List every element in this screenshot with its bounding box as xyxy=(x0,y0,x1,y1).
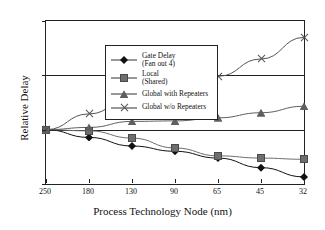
x-tick-label: 65 xyxy=(213,187,221,196)
y-tick-mark xyxy=(42,21,46,22)
legend-label-global-with-repeaters: Global with Repeaters xyxy=(142,90,208,98)
x-tick-label: 180 xyxy=(82,187,94,196)
x-tick-label: 32 xyxy=(299,187,307,196)
x-tick-mark xyxy=(89,179,90,183)
square-icon xyxy=(128,134,136,142)
legend-label-line2: (Shared) xyxy=(142,77,167,86)
x-tick-mark xyxy=(218,179,219,183)
x-tick-label: 45 xyxy=(256,187,264,196)
chart-legend: Gate Delay (Fan out 4) Local (Shared) Gl… xyxy=(105,45,218,120)
diamond-icon xyxy=(257,164,265,172)
square-icon xyxy=(171,144,179,152)
x-tick-mark xyxy=(132,179,133,183)
legend-label-local: Local (Shared) xyxy=(142,70,167,87)
x-tick-label: 130 xyxy=(125,187,137,196)
legend-label-line2: (Fan out 4) xyxy=(142,59,175,68)
legend-item-gate-delay: Gate Delay (Fan out 4) xyxy=(111,52,210,69)
legend-label-global-wo-repeaters: Global w/o Repeaters xyxy=(142,103,206,111)
y-tick-mark xyxy=(42,184,46,185)
legend-item-global-wo-repeaters: Global w/o Repeaters xyxy=(111,102,210,114)
square-icon xyxy=(257,154,265,162)
square-icon xyxy=(111,72,137,84)
triangle-icon xyxy=(257,109,266,117)
diamond-icon xyxy=(111,54,137,66)
x-tick-mark xyxy=(46,179,47,183)
x-axis-label: Process Technology Node (nm) xyxy=(0,205,325,217)
x-tick-label: 250 xyxy=(39,187,51,196)
y-tick-mark xyxy=(42,130,46,131)
x-tick-mark xyxy=(304,179,305,183)
legend-label-gate-delay: Gate Delay (Fan out 4) xyxy=(142,52,175,69)
triangle-icon xyxy=(111,88,137,100)
cross-icon xyxy=(257,54,266,63)
plot-area: Gate Delay (Fan out 4) Local (Shared) Gl… xyxy=(45,20,305,185)
cross-icon xyxy=(85,109,94,118)
y-tick-mark xyxy=(42,75,46,76)
cross-icon xyxy=(111,102,137,114)
legend-item-local: Local (Shared) xyxy=(111,70,210,87)
x-tick-label: 90 xyxy=(170,187,178,196)
legend-item-global-with-repeaters: Global with Repeaters xyxy=(111,88,210,100)
cross-icon xyxy=(300,33,309,42)
square-icon xyxy=(214,152,222,160)
x-tick-mark xyxy=(261,179,262,183)
square-icon xyxy=(300,155,308,163)
x-tick-mark xyxy=(175,179,176,183)
diamond-icon xyxy=(128,142,136,150)
chart-figure: Relative Delay 0.1110100 Gate Delay (Fan… xyxy=(0,0,325,230)
